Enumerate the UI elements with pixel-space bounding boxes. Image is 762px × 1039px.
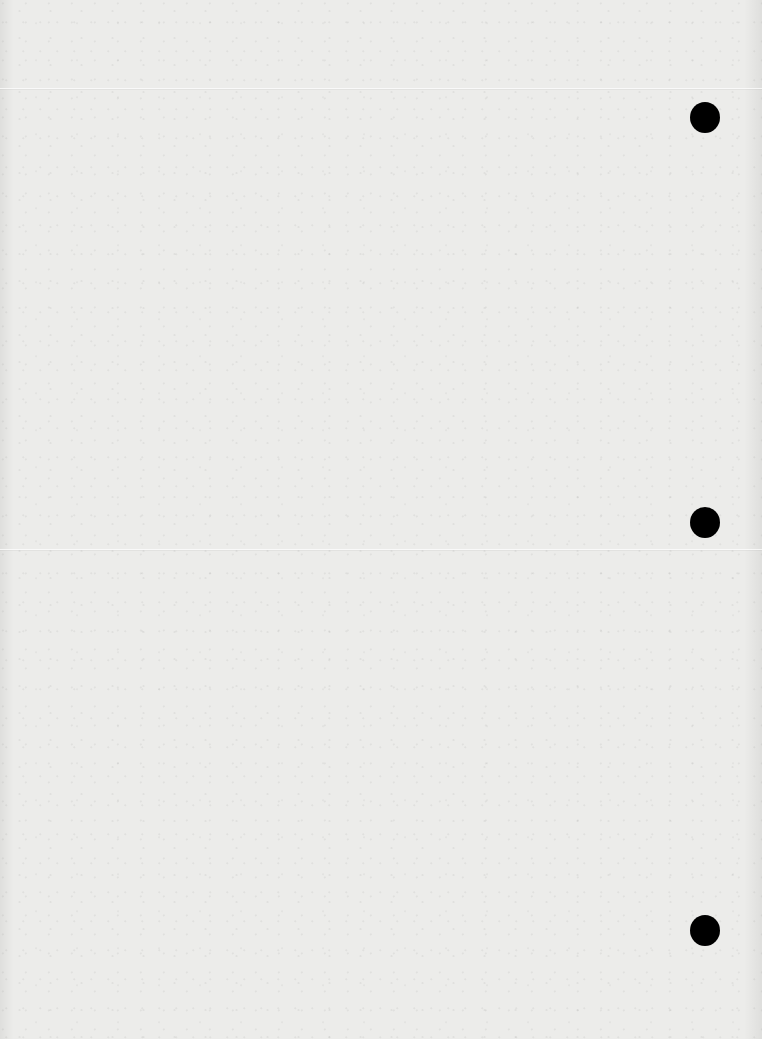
punch-hole-icon-top [690,102,720,133]
fold-line-top [0,88,762,89]
punch-hole-icon-bottom [690,915,720,946]
fold-line-middle [0,549,762,550]
paper-sheet [0,0,762,1039]
punch-hole-icon-middle [690,507,720,538]
